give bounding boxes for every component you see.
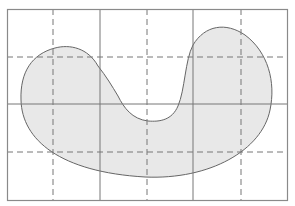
kidney-shape <box>21 27 272 177</box>
kidney-shape-layer <box>21 27 272 177</box>
diagram-canvas <box>0 0 295 206</box>
